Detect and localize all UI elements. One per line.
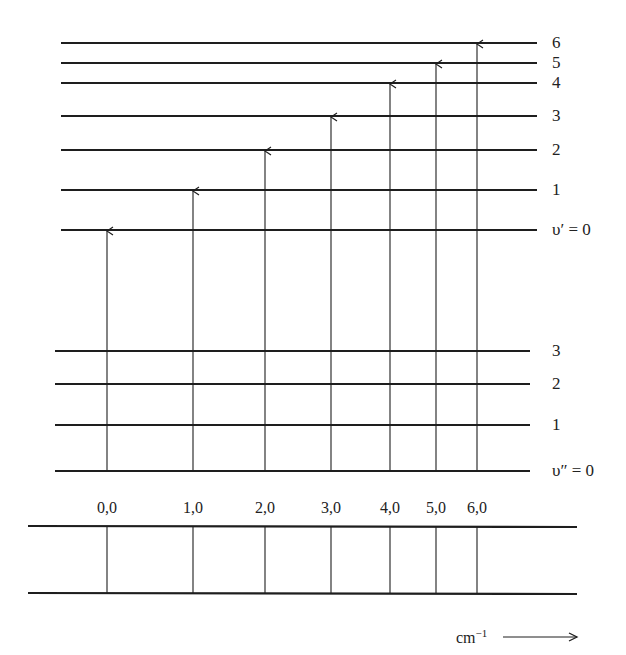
upper-level-label-v2: 2 <box>552 141 561 158</box>
spectrum-bottom-border <box>28 593 577 594</box>
spectrum-band <box>28 526 577 594</box>
lower-level-label-v1: 1 <box>552 416 561 433</box>
upper-level-label-v1: 1 <box>552 181 561 198</box>
lower-level-label-v2: 2 <box>552 375 561 392</box>
upper-level-label-v0: υ′ = 0 <box>552 221 591 238</box>
axis-unit-text: cm <box>456 629 476 646</box>
spectral-line-label-2-0: 2,0 <box>255 500 275 516</box>
axis-unit-label: cm−1 <box>456 628 487 646</box>
spectral-line-label-1-0: 1,0 <box>183 500 203 516</box>
spectral-line-label-0-0: 0,0 <box>97 500 117 516</box>
spectral-line-label-3-0: 3,0 <box>321 500 341 516</box>
spectrum-top-border <box>28 526 577 527</box>
upper-level-label-v6: 6 <box>552 34 561 51</box>
spectral-line-label-5-0: 5,0 <box>426 500 446 516</box>
upper-level-label-v4: 4 <box>552 74 561 91</box>
spectral-line-label-6-0: 6,0 <box>467 500 487 516</box>
transition-arrows <box>107 44 477 471</box>
vibronic-progression-diagram <box>0 0 626 655</box>
axis-unit-exponent: −1 <box>476 627 488 639</box>
spectral-line-label-4-0: 4,0 <box>380 500 400 516</box>
lower-level-label-v0: υ″ = 0 <box>552 462 594 479</box>
lower-level-label-v3: 3 <box>552 342 561 359</box>
upper-level-label-v3: 3 <box>552 107 561 124</box>
upper-state-levels <box>61 43 537 230</box>
upper-level-label-v5: 5 <box>552 54 561 71</box>
lower-state-levels <box>55 351 530 471</box>
